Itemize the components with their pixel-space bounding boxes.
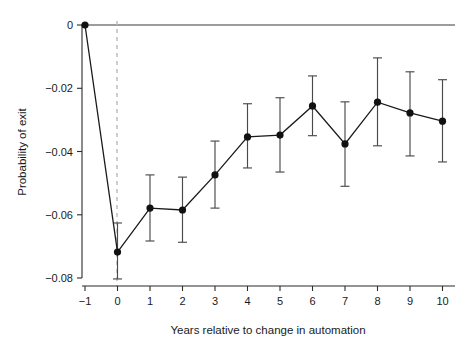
y-tick-label-4: −0.08 — [45, 272, 73, 284]
data-point-markers-group — [81, 21, 446, 255]
chart-figure: 0 −0.02 −0.04 −0.06 −0.08 −1012345678910… — [0, 0, 468, 349]
data-point-year-7 — [341, 140, 348, 147]
x-tick-label-2: 1 — [147, 295, 153, 307]
x-tick-label-11: 10 — [436, 295, 448, 307]
x-tick-label-5: 4 — [244, 295, 250, 307]
y-tick-label-2: −0.04 — [45, 146, 73, 158]
data-point-year-6 — [309, 102, 316, 109]
x-tick-label-10: 9 — [407, 295, 413, 307]
y-tick-label-0: 0 — [67, 19, 73, 31]
series-line-probability-of-exit — [85, 25, 443, 252]
x-axis-ticks — [85, 286, 443, 291]
y-tick-label-1: −0.02 — [45, 82, 73, 94]
data-point-year-0 — [114, 248, 121, 255]
event-study-plot: 0 −0.02 −0.04 −0.06 −0.08 −1012345678910… — [0, 0, 468, 349]
data-point-year-2 — [179, 206, 186, 213]
data-point-year-10 — [439, 118, 446, 125]
x-axis-title: Years relative to change in automation — [170, 324, 365, 336]
error-bars-group — [113, 58, 447, 279]
data-point-year-9 — [406, 109, 413, 116]
x-tick-label-6: 5 — [277, 295, 283, 307]
x-axis-tick-labels: −1012345678910 — [79, 295, 449, 307]
x-tick-label-8: 7 — [342, 295, 348, 307]
data-point-year--1 — [81, 21, 88, 28]
x-tick-label-3: 2 — [179, 295, 185, 307]
x-tick-label-1: 0 — [114, 295, 120, 307]
data-point-year-8 — [374, 99, 381, 106]
x-tick-label-0: −1 — [79, 295, 92, 307]
y-axis-title: Probability of exit — [16, 107, 28, 195]
data-point-year-5 — [276, 131, 283, 138]
y-axis-ticks — [77, 25, 82, 278]
data-point-year-1 — [146, 205, 153, 212]
x-tick-label-7: 6 — [309, 295, 315, 307]
data-point-year-4 — [244, 133, 251, 140]
x-tick-label-4: 3 — [212, 295, 218, 307]
x-tick-label-9: 8 — [374, 295, 380, 307]
data-point-year-3 — [211, 171, 218, 178]
y-axis-tick-labels: 0 −0.02 −0.04 −0.06 −0.08 — [45, 19, 73, 284]
y-tick-label-3: −0.06 — [45, 209, 73, 221]
